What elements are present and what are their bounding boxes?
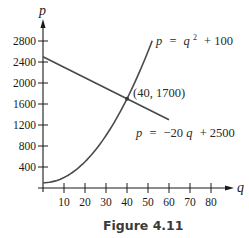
x-tick-label: 20 [79,196,91,208]
demand-eq-rest: + 2500 [200,126,235,140]
intersection-point-label: (40, 1700) [133,86,185,100]
demand-eq-var: q [186,126,192,140]
x-tick-label: 50 [142,196,154,208]
intersection-point-marker [125,97,129,101]
y-tick-label: 1600 [13,98,36,110]
supply-eq-rest: + 100 [204,34,233,48]
figure-chart: p q 1020304050607080 4008001200160020002… [0,0,249,238]
supply-eq-lhs: p [155,34,162,48]
demand-eq-equals: = [149,126,156,140]
y-tick-label: 2000 [13,77,36,89]
y-tick-label: 1200 [13,119,36,131]
x-tick-label: 60 [163,196,175,208]
x-tick-label: 40 [121,196,133,208]
x-tick-label: 80 [205,196,217,208]
y-tick-label: 400 [19,161,37,173]
supply-eq-exponent: 2 [193,33,197,42]
y-tick-label: 800 [19,140,37,152]
figure-caption: Figure 4.11 [103,218,184,233]
supply-eq-var: q [184,34,190,48]
y-axis-label: p [38,3,46,18]
x-axis-arrow-icon [225,186,234,191]
x-tick-label: 10 [58,196,70,208]
y-tick-label: 2400 [13,56,36,68]
supply-curve [43,41,152,183]
demand-eq-coef: −20 [164,126,184,140]
y-axis-arrow-icon [41,19,46,28]
y-tick-label: 2800 [13,35,36,47]
x-ticks: 1020304050607080 [58,183,217,208]
demand-eq-lhs: p [135,126,142,140]
supply-eq-equals: = [169,34,176,48]
x-tick-label: 70 [184,196,196,208]
x-axis-label: q [237,180,244,195]
x-tick-label: 30 [100,196,112,208]
supply-equation-label: p = q 2 + 100 [155,29,233,48]
demand-equation-label: p = −20 q + 2500 [135,126,235,140]
